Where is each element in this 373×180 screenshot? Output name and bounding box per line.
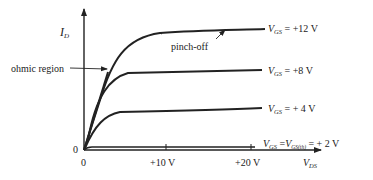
curve-vgs-4v <box>85 108 262 148</box>
x-tick-label-10v: +10 V <box>150 157 176 168</box>
curve-label-4v: VGS = + 4 V <box>268 103 316 115</box>
curve-vgs-8v <box>88 70 262 140</box>
curve-label-8v: VGS = +8 V <box>268 65 314 77</box>
x-axis-label: VDS <box>303 157 318 169</box>
pinch-off-arrow-right <box>216 30 225 39</box>
ohmic-region-label: ohmic region <box>11 63 64 74</box>
y-axis-label: ID <box>59 25 69 40</box>
x-tick-label-20v: +20 V <box>235 157 261 168</box>
x-tick-label-0: 0 <box>81 157 86 168</box>
characteristic-curves-diagram: ID 0 0 +10 V +20 V VDS ohmic region pinc… <box>0 0 373 180</box>
ohmic-region-arrow <box>70 68 107 69</box>
ohmic-region-line <box>84 72 108 150</box>
curve-label-2v-threshold: VGS =VGS(th) = + 2 V <box>263 138 340 151</box>
curve-label-12v: VGS = +12 V <box>268 23 319 35</box>
origin-y-label: 0 <box>73 144 78 155</box>
pinch-off-label: pinch-off <box>171 41 209 52</box>
